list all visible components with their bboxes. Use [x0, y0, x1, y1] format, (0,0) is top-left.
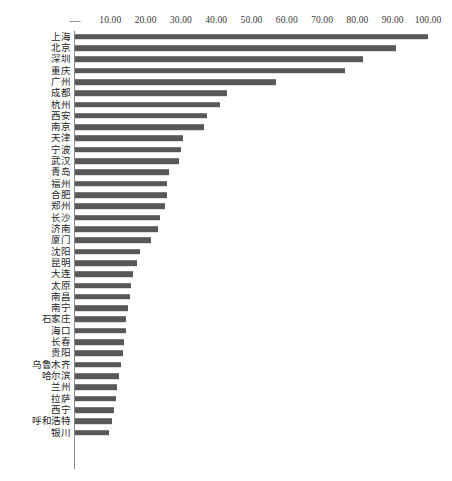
bar-row: 石家庄	[0, 314, 452, 325]
category-label: 南宁	[51, 303, 71, 313]
bar	[75, 90, 227, 96]
bar-row: 青岛	[0, 167, 452, 178]
x-tick-label: 90.00	[382, 13, 404, 27]
category-label: 南京	[51, 122, 71, 132]
x-tick-label: 60.00	[276, 13, 298, 27]
category-label: 贵阳	[51, 348, 71, 358]
bar-row: 沈阳	[0, 246, 452, 257]
bar-row: 南京	[0, 122, 452, 133]
bar-row: 长春	[0, 336, 452, 347]
bar	[75, 305, 128, 311]
category-label: 大连	[51, 269, 71, 279]
bar	[75, 102, 220, 108]
category-label: 南昌	[51, 292, 71, 302]
bar-row: 大连	[0, 269, 452, 280]
bar-row: 拉萨	[0, 393, 452, 404]
bar-row: 海口	[0, 325, 452, 336]
bar	[75, 181, 167, 187]
category-label: 拉萨	[51, 394, 71, 404]
bar-row: 广州	[0, 76, 452, 87]
bar-row: 成都	[0, 88, 452, 99]
category-label: 乌鲁木齐	[32, 360, 71, 370]
bar	[75, 45, 396, 51]
category-label: 西安	[51, 111, 71, 121]
bar-row: 贵阳	[0, 348, 452, 359]
category-label: 杭州	[51, 100, 71, 110]
bar	[75, 170, 169, 176]
bar-row: 兰州	[0, 382, 452, 393]
bar-row: 乌鲁木齐	[0, 359, 452, 370]
bar	[75, 147, 181, 153]
x-tick-label: 30.00	[170, 13, 192, 27]
bar-row: 北京	[0, 42, 452, 53]
bar	[75, 339, 124, 345]
bar-row: 上海	[0, 31, 452, 42]
bar-chart: —10.0020.0030.0040.0050.0060.0070.0080.0…	[0, 0, 452, 481]
bar-row: 昆明	[0, 257, 452, 268]
category-label: 郑州	[51, 201, 71, 211]
category-label: 石家庄	[42, 314, 71, 324]
category-label: 银川	[51, 428, 71, 438]
bar	[75, 385, 117, 391]
bar-row: 杭州	[0, 99, 452, 110]
category-label: 哈尔滨	[42, 371, 71, 381]
category-label: 济南	[51, 224, 71, 234]
bar	[75, 430, 109, 436]
bar-row: 银川	[0, 427, 452, 438]
plot-area: 上海北京深圳重庆广州成都杭州西安南京天津宁波武汉青岛福州合肥郑州长沙济南厦门沈阳…	[0, 31, 452, 471]
bar	[75, 373, 119, 379]
bar	[75, 136, 183, 142]
bar	[75, 328, 126, 334]
bar	[75, 351, 123, 357]
chart-footer-space	[0, 471, 452, 481]
category-label: 成都	[51, 88, 71, 98]
category-label: 长沙	[51, 213, 71, 223]
x-tick-label: 10.00	[99, 13, 121, 27]
category-label: 深圳	[51, 54, 71, 64]
category-label: 天津	[51, 133, 71, 143]
bar	[75, 68, 345, 74]
bar-row: 深圳	[0, 54, 452, 65]
bar-row: 郑州	[0, 201, 452, 212]
bar-row: 合肥	[0, 189, 452, 200]
category-label: 上海	[51, 32, 71, 42]
bar	[75, 396, 116, 402]
bar	[75, 215, 160, 221]
bar	[75, 204, 165, 210]
bar	[75, 56, 363, 62]
category-label: 太原	[51, 281, 71, 291]
bar-row: 太原	[0, 280, 452, 291]
category-label: 重庆	[51, 66, 71, 76]
bar-row: 西安	[0, 110, 452, 121]
x-tick-label: 40.00	[205, 13, 227, 27]
bar	[75, 79, 276, 85]
category-label: 福州	[51, 179, 71, 189]
category-label: 广州	[51, 77, 71, 87]
bar-row: 长沙	[0, 212, 452, 223]
bar-row: 厦门	[0, 235, 452, 246]
bar	[75, 271, 133, 277]
bar-row: 福州	[0, 178, 452, 189]
category-label: 武汉	[51, 156, 71, 166]
bar	[75, 260, 137, 266]
category-label: 青岛	[51, 167, 71, 177]
category-label: 昆明	[51, 258, 71, 268]
bar	[75, 283, 131, 289]
bar	[75, 158, 179, 164]
bar	[75, 317, 126, 323]
bar-row: 济南	[0, 223, 452, 234]
bar	[75, 294, 130, 300]
bar-row: 哈尔滨	[0, 370, 452, 381]
x-tick-label: 80.00	[346, 13, 368, 27]
category-label: 沈阳	[51, 247, 71, 257]
bar	[75, 124, 204, 130]
bar-row: 南宁	[0, 303, 452, 314]
category-label: 宁波	[51, 145, 71, 155]
x-tick-label: 50.00	[241, 13, 263, 27]
bar	[75, 226, 158, 232]
bar	[75, 362, 121, 368]
x-tick-label: —	[69, 13, 80, 27]
bar-row: 武汉	[0, 155, 452, 166]
bar	[75, 192, 167, 198]
bar-row: 西宁	[0, 404, 452, 415]
